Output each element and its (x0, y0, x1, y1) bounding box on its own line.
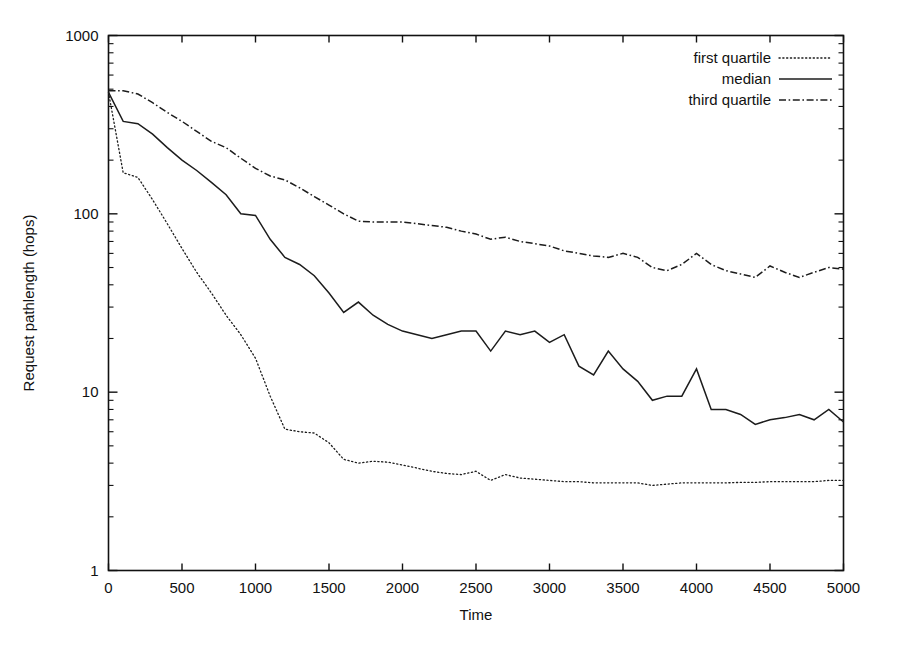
x-tick-label: 3500 (606, 579, 639, 596)
x-tick-label: 5000 (827, 579, 860, 596)
x-tick-label: 1000 (239, 579, 272, 596)
x-tick-label: 4000 (680, 579, 713, 596)
y-tick-label: 10 (82, 383, 99, 400)
y-tick-label: 1 (90, 562, 98, 579)
data-series-group (109, 91, 844, 486)
series-line-third-quartile (109, 91, 844, 278)
y-axis-label: Request pathlength (hops) (20, 215, 37, 392)
y-tick-label: 1000 (65, 27, 98, 44)
x-axis-tick-labels: 0500100015002000250030003500400045005000 (104, 579, 860, 596)
x-axis-ticks (109, 36, 844, 571)
series-line-median (109, 92, 844, 424)
x-axis-label: Time (460, 606, 493, 623)
x-tick-label: 0 (104, 579, 112, 596)
series-line-first-quartile (109, 92, 844, 485)
x-tick-label: 4500 (753, 579, 786, 596)
x-tick-label: 3000 (533, 579, 566, 596)
y-axis-ticks (109, 36, 844, 571)
line-chart: 0500100015002000250030003500400045005000… (0, 0, 904, 648)
y-tick-label: 100 (73, 205, 98, 222)
chart-legend: first quartilemedianthird quartile (688, 49, 832, 108)
legend-label-third-quartile: third quartile (688, 91, 771, 108)
x-tick-label: 500 (169, 579, 194, 596)
legend-label-first-quartile: first quartile (693, 49, 771, 66)
legend-label-median: median (722, 70, 771, 87)
plot-frame (109, 36, 844, 571)
y-axis-tick-labels: 1101001000 (65, 27, 98, 579)
x-tick-label: 2000 (386, 579, 419, 596)
x-tick-label: 2500 (459, 579, 492, 596)
chart-figure: 0500100015002000250030003500400045005000… (0, 0, 904, 648)
x-tick-label: 1500 (312, 579, 345, 596)
